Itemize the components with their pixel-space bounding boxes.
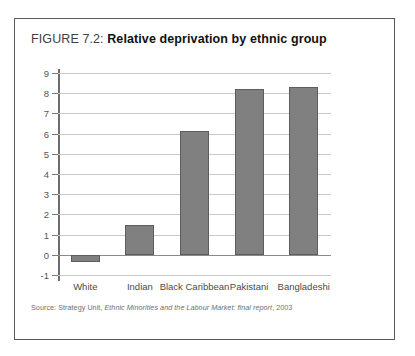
y-axis-tick	[52, 214, 58, 215]
source-prefix: Source: Strategy Unit,	[31, 303, 104, 312]
y-axis-tick-label: 4	[21, 169, 49, 180]
source-note: Source: Strategy Unit, Ethnic Minorities…	[31, 303, 292, 312]
y-axis-tick-label: 5	[21, 148, 49, 159]
source-suffix: , 2003	[272, 303, 292, 312]
y-axis-tick	[52, 174, 58, 175]
y-axis-tick	[52, 255, 58, 256]
x-axis-category-label: Pakistani	[230, 281, 269, 292]
x-axis-category-label: Black Caribbean	[160, 281, 230, 292]
x-axis-category-label: Indian	[127, 281, 153, 292]
figure-frame: FIGURE 7.2: Relative deprivation by ethn…	[14, 18, 395, 340]
y-axis-tick-label: 9	[21, 68, 49, 79]
y-axis-tick-label: 2	[21, 209, 49, 220]
bar	[289, 87, 318, 255]
y-axis-tick-label: 7	[21, 108, 49, 119]
y-axis-tick	[52, 275, 58, 276]
bar	[71, 255, 100, 262]
y-axis-tick-label: 3	[21, 189, 49, 200]
bar	[235, 89, 264, 255]
y-axis-labels: -10123456789	[15, 19, 49, 341]
y-axis-tick	[52, 93, 58, 94]
bar	[180, 131, 209, 255]
source-title: Ethnic Minorities and the Labour Market:…	[104, 303, 272, 312]
y-axis-tick-label: 8	[21, 88, 49, 99]
y-axis-tick-label: -1	[21, 270, 49, 281]
y-axis-tick	[52, 73, 58, 74]
bar	[125, 225, 154, 255]
y-axis-tick	[52, 113, 58, 114]
y-axis-tick	[52, 235, 58, 236]
y-axis-tick	[52, 154, 58, 155]
x-axis-category-label: White	[73, 281, 97, 292]
gridline	[58, 275, 331, 276]
gridline	[58, 73, 331, 74]
y-axis-tick-label: 1	[21, 229, 49, 240]
y-axis-tick-label: 0	[21, 249, 49, 260]
bar-chart: -10123456789 WhiteIndianBlack CaribbeanP…	[15, 19, 396, 341]
x-axis-category-label: Bangladeshi	[278, 281, 330, 292]
y-axis-tick-label: 6	[21, 128, 49, 139]
y-axis-tick	[52, 134, 58, 135]
y-axis-tick	[52, 194, 58, 195]
